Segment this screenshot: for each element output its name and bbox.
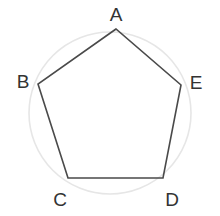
pentagon-shape [38, 29, 181, 178]
vertex-label-a: A [110, 5, 123, 24]
vertex-label-c: C [53, 190, 67, 209]
vertex-label-e: E [190, 73, 203, 92]
vertex-label-b: B [17, 72, 30, 91]
circumscribed-circle [29, 32, 191, 194]
figure-canvas [0, 0, 220, 216]
geometry-figure: A B C D E [0, 0, 220, 216]
vertex-label-d: D [165, 190, 179, 209]
